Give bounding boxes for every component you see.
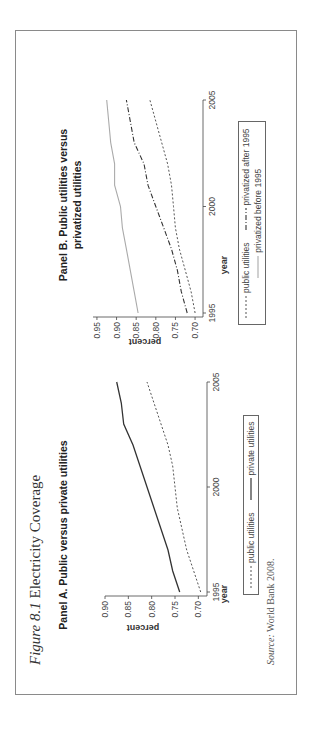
svg-text:1995: 1995 (207, 303, 217, 322)
dotted-line-icon (243, 296, 249, 318)
svg-text:2000: 2000 (207, 197, 217, 216)
legend-item-public: public utilities (241, 242, 251, 318)
svg-text:0.95: 0.95 (92, 322, 102, 339)
svg-text:2005: 2005 (207, 90, 217, 109)
series-line (107, 100, 138, 313)
svg-text:0.70: 0.70 (193, 601, 203, 618)
panel-a-xlabel: year (219, 584, 229, 603)
solid-line-icon (248, 478, 254, 500)
svg-text:0.90: 0.90 (112, 322, 122, 339)
dash-dot-line-icon (243, 208, 249, 230)
panel-b-axes: 0.700.750.800.850.900.95199520002005 (92, 90, 217, 338)
panel-b-title-line1: Panel B. Public utilities versus (57, 129, 69, 281)
rotated-figure-page: Figure 8.1 Electricity Coverage Panel A.… (15, 30, 297, 695)
panel-b-ylabel: percent (129, 337, 162, 347)
figure-source: Source: World Bank 2008. (265, 559, 276, 665)
series-line (126, 100, 187, 313)
svg-text:0.80: 0.80 (151, 322, 161, 339)
series-line (147, 382, 201, 592)
legend-item-public: public utilities (246, 512, 256, 588)
svg-text:2000: 2000 (211, 477, 221, 496)
svg-text:0.90: 0.90 (100, 601, 110, 618)
panel-b-title-line2: privatized utilities (71, 160, 83, 249)
legend-item-privatized-before: privatized before 1995 (253, 169, 263, 278)
svg-text:0.70: 0.70 (190, 322, 200, 339)
panel-a-ylabel: percent (127, 623, 160, 633)
legend-item-privatized-after: privatized after 1995 (241, 128, 251, 230)
series-line (117, 382, 180, 592)
panel-b: Panel B. Public utilities versus privati… (15, 30, 297, 365)
svg-text:2005: 2005 (211, 372, 221, 391)
panel-b-xlabel: year (219, 255, 229, 274)
svg-text:0.80: 0.80 (147, 601, 157, 618)
panel-b-legend: public utilities privatized after 1995 p… (238, 121, 266, 325)
panel-a-legend: public utilities private utilities (243, 415, 259, 595)
panel-b-lines (107, 100, 195, 313)
svg-text:0.85: 0.85 (123, 601, 133, 618)
panel-a: Panel A. Public versus private utilities… (15, 365, 297, 695)
dotted-line-icon (248, 566, 254, 588)
svg-text:0.75: 0.75 (170, 601, 180, 618)
svg-text:0.85: 0.85 (131, 322, 141, 339)
panel-a-axes: 0.700.750.800.850.90199520002005 (100, 372, 221, 617)
gray-line-icon (255, 256, 261, 278)
series-line (150, 100, 195, 313)
panel-a-title: Panel A. Public versus private utilities (57, 440, 69, 629)
panel-a-lines (117, 382, 201, 592)
svg-text:0.75: 0.75 (170, 322, 180, 339)
legend-item-private: private utilities (246, 422, 256, 501)
